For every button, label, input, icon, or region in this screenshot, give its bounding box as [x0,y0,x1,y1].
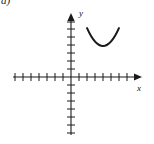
graph-figure: d) [0,0,154,144]
x-axis-label: x [136,83,141,93]
x-axis-arrowhead [134,73,142,80]
coordinate-plane-graph: x y [0,0,154,144]
y-axis-arrowhead [67,13,74,21]
y-axis-label: y [78,8,83,18]
parabola-curve [87,28,119,46]
